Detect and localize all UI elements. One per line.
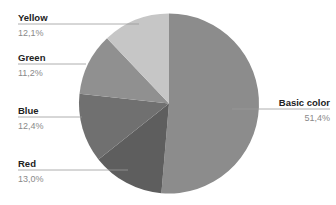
slice-label-green: Green xyxy=(18,52,46,63)
pie-slices xyxy=(79,14,259,194)
slice-label-basic-color: Basic color xyxy=(279,97,331,108)
slice-value-basic-color: 51,4% xyxy=(304,113,330,123)
slice-value-red: 13,0% xyxy=(18,174,44,184)
slice-value-green: 11,2% xyxy=(18,68,43,78)
slice-value-yellow: 12,1% xyxy=(18,28,44,38)
slice-value-blue: 12,4% xyxy=(18,121,44,131)
slice-label-yellow: Yellow xyxy=(18,12,48,23)
slice-label-red: Red xyxy=(18,158,36,169)
pie-slice-basic-color xyxy=(161,14,259,194)
pie-chart: Basic color51,4%Red13,0%Blue12,4%Green11… xyxy=(0,0,336,205)
slice-label-blue: Blue xyxy=(18,105,39,116)
